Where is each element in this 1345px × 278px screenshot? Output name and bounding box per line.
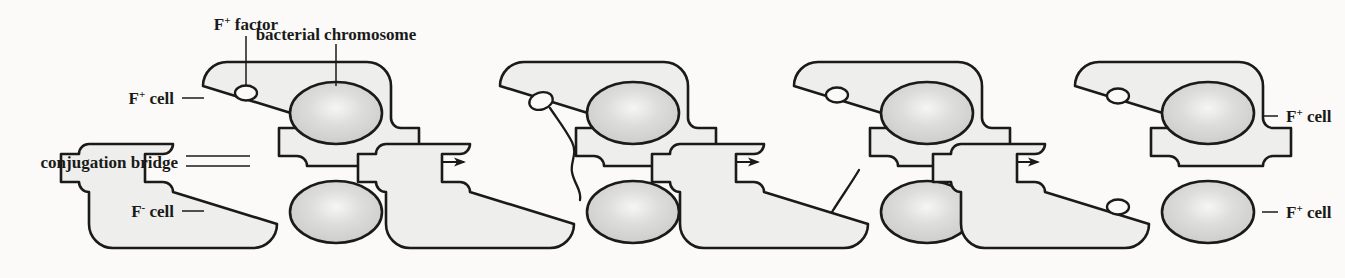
- panel-2-bottom-cell: [358, 144, 574, 248]
- panel-4-top-f-factor: [1107, 89, 1129, 104]
- f-plus-cell-label-right-top: F+ cell: [1286, 106, 1332, 126]
- panel-3-top-chromosome: [881, 82, 973, 144]
- panel-3-f-factor: [826, 88, 848, 103]
- f-plus-cell-label-right-bottom-base: F: [1286, 203, 1296, 222]
- panel-2-bottom-chromosome: [587, 181, 679, 243]
- f-minus-cell-label-left-base: F: [131, 202, 141, 221]
- bacterial-chromosome-label: bacterial chromosome: [256, 25, 417, 44]
- conjugation-diagram: F+ factor bacterial chromosome F+ cell c…: [0, 0, 1345, 278]
- panel-4-bottom-cell: [933, 144, 1149, 248]
- f-plus-cell-label-right-bottom-rest: cell: [1303, 203, 1332, 222]
- panel-4: [933, 62, 1291, 248]
- f-plus-cell-label-left-rest: cell: [145, 89, 174, 108]
- panel-4-bottom-f-factor: [1107, 200, 1129, 215]
- f-plus-cell-label-left-base: F: [129, 89, 139, 108]
- f-plus-cell-label-left: F+ cell: [129, 88, 175, 108]
- f-factor-label-base: F: [214, 15, 224, 34]
- panel-4-bottom-chromosome: [1162, 181, 1254, 243]
- panel-3-bottom-cell: [652, 144, 868, 248]
- conjugation-bridge-label: conjugation bridge: [41, 153, 179, 172]
- f-minus-cell-label-left-rest: cell: [145, 202, 174, 221]
- f-minus-cell-label-left: F- cell: [131, 201, 174, 221]
- f-plus-cell-label-right-bottom: F+ cell: [1286, 202, 1332, 222]
- panel-2-top-chromosome: [587, 82, 679, 144]
- panel-1-bottom-chromosome: [290, 181, 382, 243]
- panel-4-top-chromosome: [1162, 82, 1254, 144]
- panel-1-f-factor: [235, 86, 257, 101]
- f-plus-cell-label-right-top-rest: cell: [1303, 107, 1332, 126]
- f-plus-cell-label-right-top-base: F: [1286, 107, 1296, 126]
- panel-1-top-chromosome: [290, 82, 382, 144]
- panel-3-transferred-dna-strand: [832, 170, 859, 212]
